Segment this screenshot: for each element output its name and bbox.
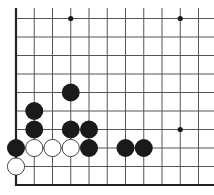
black-stone bbox=[62, 84, 80, 102]
black-stone bbox=[25, 102, 43, 120]
star-point-icon bbox=[68, 16, 73, 21]
black-stone bbox=[80, 139, 98, 157]
black-stone bbox=[135, 139, 153, 157]
black-stone bbox=[117, 139, 135, 157]
go-board-canvas bbox=[0, 0, 214, 195]
white-stone bbox=[26, 139, 43, 156]
white-stone bbox=[44, 139, 61, 156]
star-point-icon bbox=[178, 127, 183, 132]
black-stone bbox=[62, 121, 80, 139]
white-stone bbox=[62, 139, 79, 156]
black-stone bbox=[80, 121, 98, 139]
white-stone bbox=[7, 158, 24, 175]
go-board bbox=[0, 0, 214, 195]
black-stone bbox=[7, 139, 25, 157]
star-point-icon bbox=[178, 16, 183, 21]
black-stone bbox=[25, 121, 43, 139]
